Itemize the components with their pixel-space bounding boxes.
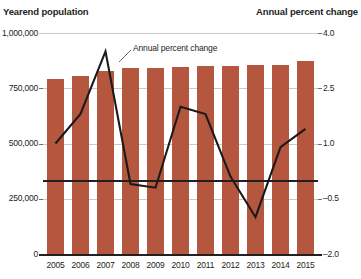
x-axis-tick-label: 2010 bbox=[168, 260, 193, 270]
x-axis-tick-label: 2012 bbox=[218, 260, 243, 270]
x-axis-tick-label: 2015 bbox=[293, 260, 318, 270]
x-axis-tick-label: 2008 bbox=[118, 260, 143, 270]
x-axis-tick-label: 2006 bbox=[68, 260, 93, 270]
annotation-annual-percent-change: Annual percent change bbox=[133, 43, 217, 53]
x-axis-tick-label: 2011 bbox=[193, 260, 218, 270]
x-axis-tick-label: 2005 bbox=[43, 260, 68, 270]
chart-figure: Yearend population Annual percent change… bbox=[0, 0, 361, 279]
annotation-leader-line bbox=[119, 50, 131, 62]
annual-percent-change-line bbox=[56, 51, 306, 217]
x-axis-tick-label: 2007 bbox=[93, 260, 118, 270]
x-axis-tick-label: 2014 bbox=[268, 260, 293, 270]
line-series-layer bbox=[0, 0, 361, 279]
x-axis-tick-label: 2013 bbox=[243, 260, 268, 270]
x-axis-tick-label: 2009 bbox=[143, 260, 168, 270]
